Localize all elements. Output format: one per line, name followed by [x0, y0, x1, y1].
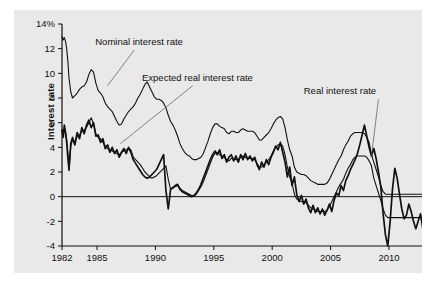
x-tick-label: 1982	[51, 252, 72, 263]
y-tick-label: 6	[50, 117, 55, 128]
chart-panel: Interest rate 14%121086420-2-4 198219851…	[14, 10, 422, 273]
series-annotation-label: Nominal interest rate	[95, 36, 183, 47]
axis-lines	[62, 24, 422, 246]
figure-container: Interest rate 14%121086420-2-4 198219851…	[0, 0, 436, 285]
x-tick-label: 1990	[145, 252, 166, 263]
y-tick-label: 8	[50, 92, 55, 103]
interest-rate-line-chart: 14%121086420-2-4 19821985199019952000200…	[14, 10, 422, 273]
series-line-real-interest-rate	[62, 120, 422, 246]
x-tick-label: 2010	[378, 252, 399, 263]
y-tick-label: 4	[50, 142, 55, 153]
x-tick-label: 2005	[320, 252, 341, 263]
series-annotation-label: Real interest rate	[304, 85, 376, 96]
y-tick-label: 14%	[36, 18, 56, 29]
x-tick-label: 2000	[262, 252, 283, 263]
y-tick-label: -2	[47, 216, 55, 227]
y-tick-label: 0	[50, 191, 55, 202]
x-tick-label: 1995	[203, 252, 224, 263]
series-line-expected-real-interest-rate	[62, 118, 422, 218]
annotations-group: Nominal interest rateExpected real inter…	[95, 36, 378, 156]
y-axis-ticks: 14%121086420-2-4	[36, 18, 62, 251]
x-axis-ticks: 1982198519901995200020052010	[51, 246, 399, 263]
y-tick-label: 2	[50, 166, 55, 177]
x-tick-label: 1985	[86, 252, 107, 263]
y-tick-label: 12	[44, 43, 55, 54]
y-tick-label: 10	[44, 68, 55, 79]
series-annotation-label: Expected real interest rate	[142, 72, 253, 83]
y-tick-label: -4	[47, 240, 55, 251]
data-series-group	[62, 36, 422, 246]
series-line-nominal-interest-rate	[62, 36, 422, 194]
